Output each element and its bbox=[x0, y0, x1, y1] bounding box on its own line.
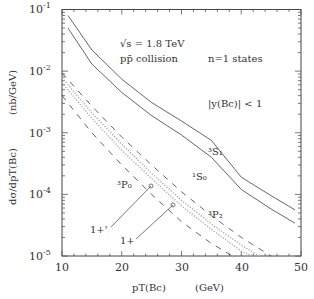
svg-text:10-4: 10-4 bbox=[29, 186, 51, 201]
x-axis-label: pT(Bc) bbox=[132, 282, 166, 293]
svg-text:10-3: 10-3 bbox=[29, 125, 51, 140]
arrow-1plus-prime bbox=[111, 186, 151, 227]
label-1S0: ¹S₀ bbox=[192, 171, 207, 182]
y-axis-unit: (nb/GeV) bbox=[7, 70, 18, 115]
cross-section-plot: 10-1 10-2 10-3 10-4 10-5 10 20 30 40 50 … bbox=[0, 0, 314, 299]
svg-text:10-1: 10-1 bbox=[29, 1, 51, 16]
label-1plus: 1+ bbox=[120, 235, 135, 246]
y-axis-label: dσ/dpT(Bc) bbox=[7, 148, 18, 205]
sqrt-s-annotation: √s = 1.8 TeV bbox=[120, 38, 185, 49]
rapidity-annotation: |y(Bc)| < 1 bbox=[208, 98, 262, 110]
label-3S1: ³S₁ bbox=[208, 146, 223, 157]
label-3P2: ³P₂ bbox=[208, 209, 223, 220]
svg-text:50: 50 bbox=[294, 261, 308, 274]
y-tick-labels: 10-1 10-2 10-3 10-4 10-5 bbox=[29, 1, 51, 263]
arrow-1plus bbox=[136, 205, 173, 239]
curves bbox=[62, 16, 295, 257]
label-1plus-prime: 1+' bbox=[90, 224, 108, 235]
svg-text:30: 30 bbox=[175, 261, 189, 274]
x-tick-labels: 10 20 30 40 50 bbox=[55, 261, 308, 274]
svg-text:10-5: 10-5 bbox=[29, 248, 51, 263]
x-axis-unit: (GeV) bbox=[195, 282, 224, 293]
svg-text:40: 40 bbox=[235, 261, 249, 274]
collision-annotation: pp̄ collision bbox=[120, 53, 179, 64]
svg-text:10-2: 10-2 bbox=[29, 63, 51, 78]
states-annotation: n=1 states bbox=[208, 53, 263, 64]
label-3P0: ³P₀ bbox=[117, 179, 132, 190]
svg-text:10: 10 bbox=[55, 261, 69, 274]
svg-text:20: 20 bbox=[115, 261, 129, 274]
